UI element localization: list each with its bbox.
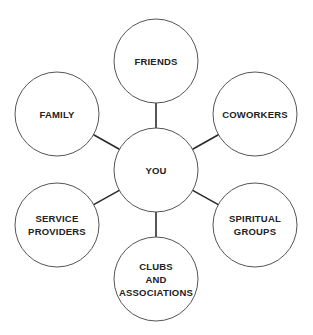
- node-friends: FRIENDS: [114, 19, 198, 103]
- node-label-clubs-and-associations: AND: [145, 274, 166, 285]
- node-label-clubs-and-associations: ASSOCIATIONS: [119, 287, 193, 298]
- node-label-family: FAMILY: [39, 109, 75, 120]
- nodes-layer: YOUFRIENDSFAMILYCOWORKERSSERVICEPROVIDER…: [15, 19, 297, 321]
- support-network-diagram: YOUFRIENDSFAMILYCOWORKERSSERVICEPROVIDER…: [0, 0, 313, 335]
- node-label-service-providers: PROVIDERS: [28, 226, 86, 237]
- node-coworkers: COWORKERS: [213, 72, 297, 156]
- node-label-service-providers: SERVICE: [36, 213, 79, 224]
- node-label-coworkers: COWORKERS: [222, 109, 288, 120]
- node-circle-service-providers: [15, 183, 99, 267]
- node-label-spiritual-groups: SPIRITUAL: [229, 213, 281, 224]
- node-label-you: YOU: [145, 165, 166, 176]
- node-you: YOU: [114, 128, 198, 212]
- node-spiritual-groups: SPIRITUALGROUPS: [213, 183, 297, 267]
- node-service-providers: SERVICEPROVIDERS: [15, 183, 99, 267]
- node-label-friends: FRIENDS: [134, 56, 177, 67]
- node-circle-spiritual-groups: [213, 183, 297, 267]
- node-clubs-and-associations: CLUBSANDASSOCIATIONS: [114, 237, 198, 321]
- edge-you-to-family: [94, 135, 120, 150]
- node-family: FAMILY: [15, 72, 99, 156]
- node-label-clubs-and-associations: CLUBS: [139, 261, 173, 272]
- edge-you-to-coworkers: [193, 135, 219, 150]
- node-label-spiritual-groups: GROUPS: [234, 226, 276, 237]
- edge-you-to-spiritual-groups: [193, 190, 219, 204]
- edge-you-to-service-providers: [94, 190, 120, 204]
